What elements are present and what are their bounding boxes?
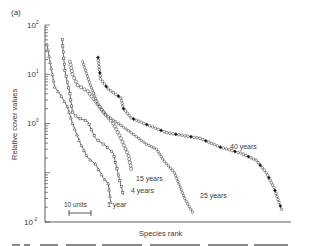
data-point — [154, 127, 157, 130]
data-point — [157, 128, 160, 131]
data-point — [179, 186, 181, 188]
y-tick-label-10: 101 — [27, 68, 39, 79]
data-point — [112, 119, 114, 121]
series-40-years — [97, 56, 283, 211]
data-point — [178, 183, 180, 185]
data-point — [151, 126, 154, 129]
data-point — [127, 154, 130, 157]
data-point — [101, 108, 103, 110]
data-point — [110, 117, 112, 119]
data-point — [74, 80, 77, 83]
data-point — [108, 195, 111, 198]
scale-bar-label: 10 units — [64, 201, 88, 208]
data-point — [94, 95, 96, 97]
data-point — [79, 118, 81, 120]
data-point — [207, 141, 210, 144]
data-point — [91, 129, 93, 131]
data-point — [120, 185, 122, 187]
data-point — [82, 63, 84, 65]
data-point — [261, 166, 264, 169]
data-point — [119, 180, 121, 182]
data-point — [128, 114, 131, 117]
data-point — [145, 123, 148, 126]
data-point — [184, 134, 187, 137]
data-point — [83, 88, 86, 91]
data-point — [69, 116, 72, 119]
data-point — [276, 195, 279, 198]
data-point — [51, 73, 54, 76]
data-point — [165, 162, 167, 164]
data-point — [83, 66, 85, 68]
data-point — [176, 177, 178, 179]
data-point — [204, 139, 207, 142]
data-point — [177, 180, 179, 182]
data-point — [280, 208, 283, 211]
data-point — [257, 161, 260, 164]
data-point — [97, 59, 100, 62]
data-point — [166, 131, 169, 134]
y-tick-label-1: 100 — [27, 117, 39, 128]
data-point — [278, 201, 281, 204]
data-point — [117, 174, 119, 176]
data-point — [122, 191, 124, 193]
data-point — [160, 155, 162, 157]
data-point — [75, 133, 78, 136]
data-point — [270, 181, 273, 184]
data-point — [143, 122, 146, 125]
data-point — [250, 157, 253, 160]
data-point — [135, 135, 137, 137]
data-point — [263, 169, 266, 172]
data-point — [115, 128, 118, 131]
data-point — [233, 150, 236, 153]
data-point — [117, 122, 119, 124]
data-point — [196, 137, 199, 140]
data-point — [86, 75, 88, 77]
y-tick-labels: 102 101 100 10-2 — [24, 19, 39, 227]
data-point — [199, 137, 202, 140]
scale-bar — [69, 210, 91, 216]
data-point — [216, 145, 219, 148]
data-point — [277, 198, 280, 201]
data-point — [188, 205, 190, 207]
data-point — [279, 204, 282, 207]
data-point — [122, 126, 124, 128]
data-point — [252, 158, 255, 161]
data-point — [121, 102, 124, 105]
data-point — [213, 143, 216, 146]
data-point — [62, 51, 64, 53]
data-point — [273, 189, 276, 192]
data-point — [64, 69, 66, 71]
data-point — [121, 140, 124, 143]
data-point — [82, 60, 84, 62]
data-point — [71, 111, 73, 113]
series-label-15-years: 15 years — [136, 175, 163, 183]
data-point — [107, 115, 109, 117]
data-point — [109, 90, 112, 93]
data-point — [174, 174, 176, 176]
data-point — [113, 125, 116, 128]
data-point — [181, 192, 183, 194]
data-point — [124, 147, 127, 150]
data-point — [112, 122, 115, 125]
data-point — [50, 67, 53, 70]
data-point — [160, 129, 163, 132]
data-point — [48, 55, 51, 58]
data-point — [173, 172, 175, 174]
data-point — [130, 167, 133, 170]
data-point — [174, 133, 177, 136]
data-point — [240, 152, 243, 155]
data-point — [159, 153, 161, 155]
data-point — [68, 87, 70, 89]
data-point — [65, 75, 67, 77]
series-label-1-year: 1 year — [107, 201, 127, 209]
data-point — [120, 124, 122, 126]
data-point — [255, 159, 258, 162]
data-point — [167, 165, 169, 167]
data-point — [163, 160, 165, 162]
data-point — [104, 114, 106, 116]
data-point — [114, 161, 116, 163]
data-point — [193, 136, 196, 139]
data-point — [97, 103, 99, 105]
data-point — [130, 132, 132, 134]
data-point — [99, 75, 102, 78]
